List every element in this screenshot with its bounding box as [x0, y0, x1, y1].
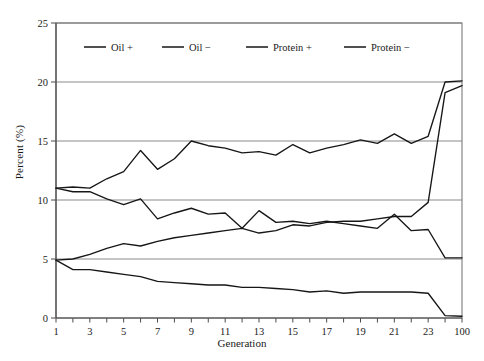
- legend-label: Oil +: [111, 42, 133, 53]
- svg-text:9: 9: [189, 326, 194, 337]
- line-chart: 0510152025 1357911131517192123100 Oil +O…: [0, 0, 484, 361]
- chart-figure: 0510152025 1357911131517192123100 Oil +O…: [0, 0, 484, 361]
- svg-text:15: 15: [288, 326, 299, 337]
- legend-label: Protein −: [371, 42, 410, 53]
- series-line: [56, 81, 462, 188]
- svg-text:17: 17: [321, 326, 332, 337]
- y-axis-label: Percent (%): [13, 107, 25, 197]
- svg-text:7: 7: [155, 326, 160, 337]
- chart-legend: Oil +Oil −Protein +Protein −: [84, 42, 410, 53]
- svg-text:0: 0: [43, 313, 48, 324]
- svg-text:3: 3: [87, 326, 92, 337]
- svg-text:21: 21: [389, 326, 400, 337]
- svg-text:25: 25: [38, 18, 49, 29]
- x-axis-label: Generation: [0, 337, 484, 349]
- series-line: [56, 188, 462, 258]
- svg-text:5: 5: [43, 254, 48, 265]
- data-series: [56, 81, 462, 316]
- svg-text:19: 19: [355, 326, 366, 337]
- svg-text:100: 100: [454, 326, 470, 337]
- y-axis-ticks: 0510152025: [38, 18, 57, 324]
- svg-text:1: 1: [53, 326, 58, 337]
- gridlines: [56, 23, 462, 259]
- series-line: [56, 86, 462, 261]
- svg-text:15: 15: [38, 136, 49, 147]
- svg-text:5: 5: [121, 326, 126, 337]
- svg-text:10: 10: [38, 195, 49, 206]
- svg-text:20: 20: [38, 77, 49, 88]
- svg-text:23: 23: [423, 326, 434, 337]
- legend-label: Oil −: [189, 42, 211, 53]
- legend-label: Protein +: [273, 42, 312, 53]
- svg-text:11: 11: [220, 326, 230, 337]
- series-line: [56, 260, 462, 316]
- svg-text:13: 13: [254, 326, 265, 337]
- x-axis-ticks: 1357911131517192123100: [53, 318, 470, 337]
